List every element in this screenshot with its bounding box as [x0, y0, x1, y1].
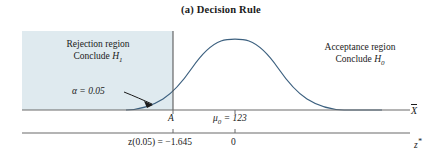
z-critical-value-label: z(0.05) = −1.645: [128, 136, 192, 148]
boundary-value-label: A: [168, 112, 174, 124]
x-bar-symbol: X: [411, 104, 417, 117]
acceptance-region-line2-prefix: Conclude: [335, 54, 374, 64]
acceptance-region-line1: Acceptance region: [325, 42, 396, 52]
alpha-level-label: α = 0.05: [72, 85, 105, 97]
sample-mean-axis-label: X: [411, 104, 417, 117]
z-star-superscript: *: [418, 137, 422, 146]
acceptance-region-label: Acceptance region Conclude H0: [300, 41, 420, 69]
rejection-region-line1: Rejection region: [66, 39, 129, 49]
rejection-region-hypothesis-sub: 1: [119, 56, 123, 64]
acceptance-region-hypothesis-sub: 0: [381, 59, 385, 67]
population-mean-label: μ0 = 123: [213, 112, 247, 128]
decision-rule-plot: [0, 0, 442, 168]
mu-value: = 123: [221, 113, 246, 123]
rejection-region-label: Rejection region Conclude H1: [33, 38, 163, 66]
z-axis-label: z*: [414, 136, 422, 151]
rejection-region-line2-prefix: Conclude: [73, 51, 112, 61]
z-zero-label: 0: [231, 136, 236, 148]
decision-rule-figure: (a) Decision Rule Rejection region Concl…: [0, 0, 442, 168]
